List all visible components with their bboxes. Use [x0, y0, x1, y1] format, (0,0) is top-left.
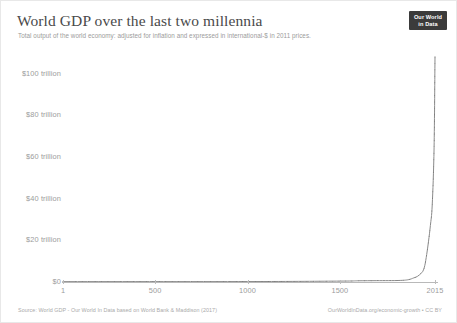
gdp-data-point	[435, 57, 436, 58]
gdp-data-point	[377, 280, 378, 281]
gdp-data-point	[432, 198, 433, 199]
gdp-line-chart	[63, 57, 435, 282]
x-tick-label: 500	[149, 286, 162, 295]
y-tick-label: $100 trillion	[22, 69, 61, 78]
gdp-data-point	[434, 76, 435, 77]
gdp-data-point	[428, 242, 429, 243]
gdp-data-point	[396, 280, 397, 281]
x-tick-mark	[435, 280, 436, 284]
gdp-data-point	[409, 279, 410, 280]
gdp-data-point	[434, 134, 435, 135]
gdp-data-point	[434, 146, 435, 147]
gdp-data-point	[434, 114, 435, 115]
gdp-data-point	[434, 127, 435, 128]
x-tick-label: 2015	[427, 286, 444, 295]
gdp-data-point	[433, 179, 434, 180]
gdp-data-point	[434, 69, 435, 70]
gdp-data-point	[434, 121, 435, 122]
gdp-data-point	[434, 153, 435, 154]
y-tick-label: $60 trillion	[26, 152, 61, 161]
gdp-data-point	[424, 268, 425, 269]
license-note[interactable]: OurWorldInData.org/economic-growth • CC …	[328, 307, 442, 313]
y-tick-label: $80 trillion	[26, 110, 61, 119]
gdp-data-point	[420, 273, 421, 274]
x-tick-mark	[248, 280, 249, 284]
gdp-data-point	[429, 236, 430, 237]
x-tick-label: 1	[61, 286, 65, 295]
gdp-data-point	[434, 89, 435, 90]
gdp-data-point	[425, 262, 426, 263]
x-axis-line	[62, 282, 438, 283]
gdp-data-point	[432, 204, 433, 205]
gdp-data-point	[430, 223, 431, 224]
gdp-data-point	[433, 172, 434, 173]
gdp-data-point	[384, 280, 385, 281]
our-world-in-data-logo[interactable]: Our World in Data	[409, 11, 447, 30]
chart-card: World GDP over the last two millennia To…	[0, 0, 457, 323]
gdp-data-points	[63, 57, 436, 283]
gdp-data-point	[433, 159, 434, 160]
gdp-data-point	[390, 280, 391, 281]
x-tick-mark	[63, 280, 64, 284]
plot-area	[63, 57, 435, 282]
gdp-data-point	[434, 101, 435, 102]
chart-subtitle: Total output of the world economy: adjus…	[18, 32, 311, 39]
gdp-data-point	[429, 230, 430, 231]
gdp-data-point	[415, 277, 416, 278]
gdp-data-point	[434, 95, 435, 96]
y-tick-label: $0	[53, 277, 61, 286]
gdp-data-point	[426, 255, 427, 256]
gdp-data-point	[433, 185, 434, 186]
logo-line-2: in Data	[418, 21, 437, 27]
gdp-line-path	[63, 57, 435, 282]
gdp-data-point	[433, 166, 434, 167]
gdp-data-point	[432, 191, 433, 192]
gdp-data-point	[434, 63, 435, 64]
source-note: Source: World GDP - Our World In Data ba…	[18, 307, 217, 313]
y-tick-label: $40 trillion	[26, 194, 61, 203]
y-axis: $0$20 trillion$40 trillion$60 trillion$8…	[1, 1, 61, 323]
gdp-data-point	[431, 211, 432, 212]
gdp-data-point	[434, 108, 435, 109]
y-tick-label: $20 trillion	[26, 235, 61, 244]
x-tick-mark	[155, 280, 156, 284]
gdp-data-point	[431, 217, 432, 218]
gdp-data-point	[434, 140, 435, 141]
x-tick-label: 1000	[239, 286, 256, 295]
gdp-data-point	[371, 280, 372, 281]
gdp-data-point	[434, 82, 435, 83]
gdp-data-point	[403, 280, 404, 281]
x-tick-label: 1500	[331, 286, 348, 295]
gdp-data-point	[427, 249, 428, 250]
x-tick-mark	[340, 280, 341, 284]
